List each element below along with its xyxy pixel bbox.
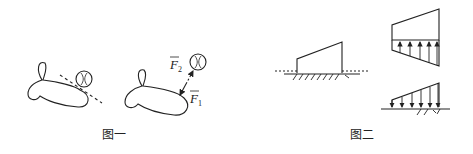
force-f2-arrow — [186, 71, 193, 84]
figure2-downward-load — [381, 83, 450, 115]
hand-shape-right — [125, 70, 188, 115]
figure2-upward-load — [392, 9, 439, 66]
downward-arrows — [392, 84, 438, 107]
f1-subscript: 1 — [198, 99, 202, 108]
ground-hatching-right — [417, 109, 440, 115]
upper-trapezoid — [392, 9, 439, 40]
load-outline — [392, 83, 439, 107]
lower-load-outline — [392, 40, 439, 66]
figure2-caption: 图二 — [350, 125, 374, 142]
ground-hatching — [293, 74, 349, 80]
ball-right — [190, 54, 206, 70]
ball-left — [76, 71, 92, 87]
trapezoid-block — [297, 42, 342, 73]
diagram-canvas: F 2 F 1 — [0, 0, 473, 154]
f2-subscript: 2 — [178, 65, 182, 74]
figure1-caption: 图一 — [102, 125, 126, 142]
tangent-dashed-line — [60, 75, 102, 103]
force-f1-arrow — [180, 84, 186, 95]
upward-arrows — [400, 42, 437, 65]
figure2-block-on-ground — [275, 42, 368, 80]
figure1-left-scene — [28, 62, 102, 107]
